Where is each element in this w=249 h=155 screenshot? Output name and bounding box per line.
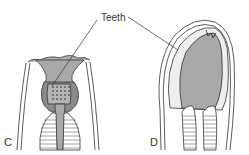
diagram-canvas	[0, 0, 249, 155]
leader-line-d	[128, 17, 178, 50]
panel-d-figure	[159, 20, 235, 150]
panel-c-label: C	[4, 136, 12, 148]
leader-line-c	[52, 20, 97, 86]
panel-d-label: D	[150, 136, 158, 148]
panel-c-figure	[17, 56, 99, 151]
teeth-label: Teeth	[101, 12, 125, 23]
